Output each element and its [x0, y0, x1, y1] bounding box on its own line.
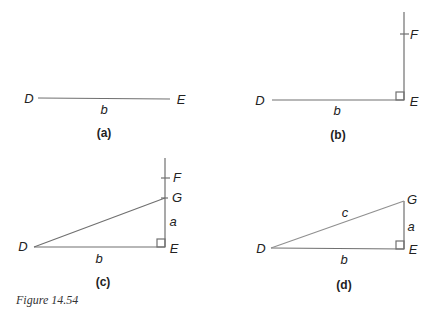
panel-c-segment-dg — [34, 198, 165, 247]
geometry-drawing — [0, 0, 436, 316]
panel-d-label-c: c — [342, 206, 349, 219]
panel-d-hypotenuse-dg — [271, 201, 404, 248]
panel-b-label-d: D — [255, 94, 264, 107]
panel-a-segment-de — [38, 98, 170, 99]
panel-d-label-d: D — [256, 242, 265, 255]
panel-c-right-angle-mark — [157, 239, 165, 247]
panel-d-right-angle-mark — [396, 241, 404, 249]
panel-d-caption: (d) — [336, 279, 351, 291]
panel-b-label-e: E — [410, 95, 419, 108]
figure-caption: Figure 14.54 — [16, 294, 78, 306]
panel-d-segment-de — [271, 248, 404, 249]
panel-c-label-a: a — [169, 215, 176, 228]
panel-d-label-b: b — [340, 253, 347, 266]
panel-b-caption: (b) — [330, 129, 345, 141]
panel-c-label-b: b — [95, 252, 102, 265]
panel-b-label-f: F — [410, 28, 418, 41]
panel-c-caption: (c) — [96, 276, 111, 288]
panel-a-caption: (a) — [97, 127, 112, 139]
panel-a-label-b: b — [100, 103, 107, 116]
panel-a-label-d: D — [24, 92, 33, 105]
panel-c-label-g: G — [172, 191, 182, 204]
panel-c-label-d: D — [18, 240, 27, 253]
panel-b-right-angle-mark — [396, 92, 404, 100]
panel-d-label-g: G — [407, 193, 417, 206]
panel-d-label-e: E — [409, 243, 418, 256]
panel-d-label-a: a — [407, 220, 414, 233]
figure-14-54: D E b (a) D E F b (b) D E F G a b (c) D … — [0, 0, 436, 316]
panel-a-label-e: E — [177, 93, 186, 106]
panel-c-label-e: E — [170, 242, 179, 255]
panel-c-label-f: F — [173, 171, 181, 184]
panel-b-label-b: b — [333, 104, 340, 117]
